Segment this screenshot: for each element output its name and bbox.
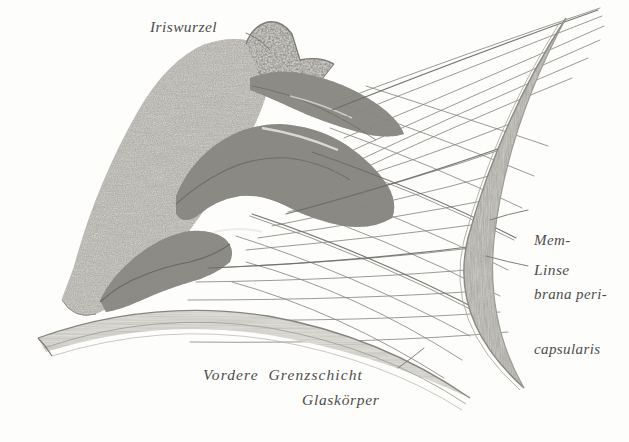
label-membrana-line-2: brana peri-	[534, 285, 607, 303]
label-linse: Linse	[534, 261, 570, 280]
label-vordere-grenzschicht: Vordere Grenzschicht	[203, 366, 363, 385]
label-membrana-line-3: capsularis	[534, 340, 607, 358]
label-membrana-pericapsularis: Mem- brana peri- capsularis	[534, 194, 607, 377]
label-membrana-line-1: Mem-	[534, 231, 607, 249]
label-glaskoerper: Glaskörper	[302, 391, 380, 410]
label-iriswurzel: Iriswurzel	[150, 18, 217, 37]
